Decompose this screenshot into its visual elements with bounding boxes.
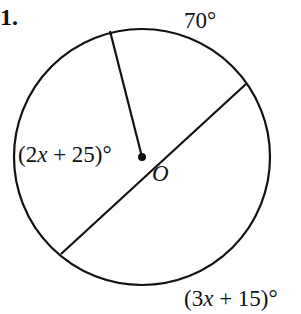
arc-bottom-label: (3x + 15)° bbox=[184, 286, 278, 311]
center-label: O bbox=[152, 161, 169, 186]
problem-number: 1. bbox=[0, 4, 18, 30]
circle-diagram: 1. 70° (2x + 25)° O (3x + 15)° bbox=[0, 0, 301, 314]
angle-left-label: (2x + 25)° bbox=[18, 142, 112, 167]
radius-top bbox=[110, 31, 142, 157]
arc-top-label: 70° bbox=[184, 8, 216, 33]
center-point bbox=[138, 153, 146, 161]
